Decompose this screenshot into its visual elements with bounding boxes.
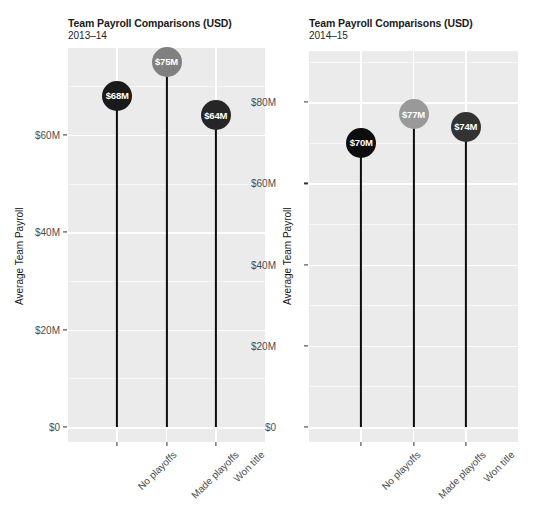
y-axis-tick-mark [304, 183, 308, 184]
data-point-bubble[interactable]: $64M [201, 100, 231, 130]
y-axis-tick-label: $60M [0, 129, 60, 140]
chart-subtitle: 2014–15 [309, 30, 348, 41]
x-axis-tick-mark [117, 442, 118, 446]
y-axis-title: Average Team Payroll [14, 208, 25, 305]
lollipop-stem [412, 114, 414, 427]
y-axis-tick-mark [63, 426, 67, 427]
y-axis-tick-mark [63, 134, 67, 135]
x-axis-tick-label: No playoffs [136, 449, 179, 492]
y-axis-tick-mark [304, 345, 308, 346]
y-axis-tick-label: $40M [236, 259, 276, 270]
data-point-bubble[interactable]: $75M [152, 47, 182, 77]
x-axis-tick-label: No playoffs [380, 449, 423, 492]
x-axis-tick-label: Made playoffs [436, 449, 488, 501]
chart-title: Team Payroll Comparisons (USD) [68, 17, 232, 29]
y-axis-tick-mark [304, 102, 308, 103]
lollipop-stem [465, 127, 467, 427]
data-point-bubble[interactable]: $70M [346, 128, 376, 158]
chart-title: Team Payroll Comparisons (USD) [309, 17, 473, 29]
y-axis-tick-label: $80M [236, 97, 276, 108]
chart-2014-15: Team Payroll Comparisons (USD) 2014–15 A… [270, 0, 539, 521]
lollipop-stem [360, 143, 362, 427]
y-axis-tick-mark [63, 232, 67, 233]
data-point-bubble[interactable]: $77M [399, 99, 429, 129]
y-axis-tick-label: $60M [236, 178, 276, 189]
y-axis-tick-label: $0 [0, 422, 60, 433]
y-axis-tick-mark [63, 329, 67, 330]
chart-subtitle: 2013–14 [68, 30, 107, 41]
y-axis-tick-label: $40M [0, 227, 60, 238]
chart-2013-14: Team Payroll Comparisons (USD) 2013–14 A… [0, 0, 270, 521]
x-axis-tick-label: Won title [481, 449, 516, 484]
y-axis-tick-label: $0 [236, 422, 276, 433]
y-axis-tick-mark [304, 426, 308, 427]
x-axis-tick-mark [465, 442, 466, 446]
x-axis-tick-mark [361, 442, 362, 446]
x-axis-tick-mark [166, 442, 167, 446]
x-axis-tick-mark [413, 442, 414, 446]
y-axis-title: Average Team Payroll [282, 208, 293, 305]
data-point-bubble[interactable]: $74M [451, 112, 481, 142]
plot-panel: $70M$77M$74M [309, 51, 518, 442]
lollipop-stem [215, 115, 217, 427]
y-axis-tick-label: $20M [0, 324, 60, 335]
x-axis-tick-mark [215, 442, 216, 446]
lollipop-stem [116, 96, 118, 427]
data-point-bubble[interactable]: $68M [102, 81, 132, 111]
y-axis-tick-mark [304, 264, 308, 265]
y-axis-tick-label: $20M [236, 340, 276, 351]
lollipop-stem [165, 62, 167, 427]
